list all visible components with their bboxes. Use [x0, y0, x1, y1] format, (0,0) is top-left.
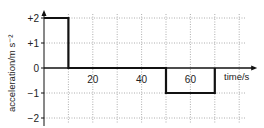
acceleration-time-chart: +2+10−1−2204060 time/s acceleration/m s⁻…	[0, 0, 264, 128]
x-axis-arrow-icon	[251, 66, 257, 71]
y-tick-label: −2	[28, 113, 40, 124]
x-tick-label: 20	[87, 74, 99, 85]
x-axis-label: time/s	[224, 71, 250, 82]
x-tick-label: 40	[136, 74, 148, 85]
y-axis-arrow-icon	[42, 10, 47, 16]
y-tick-label: 0	[33, 63, 39, 74]
y-tick-label: −1	[28, 88, 40, 99]
y-axis-label: acceleration/m s⁻²	[6, 35, 17, 112]
y-tick-label: +1	[28, 38, 40, 49]
y-tick-label: +2	[28, 13, 40, 24]
x-tick-label: 60	[185, 74, 197, 85]
